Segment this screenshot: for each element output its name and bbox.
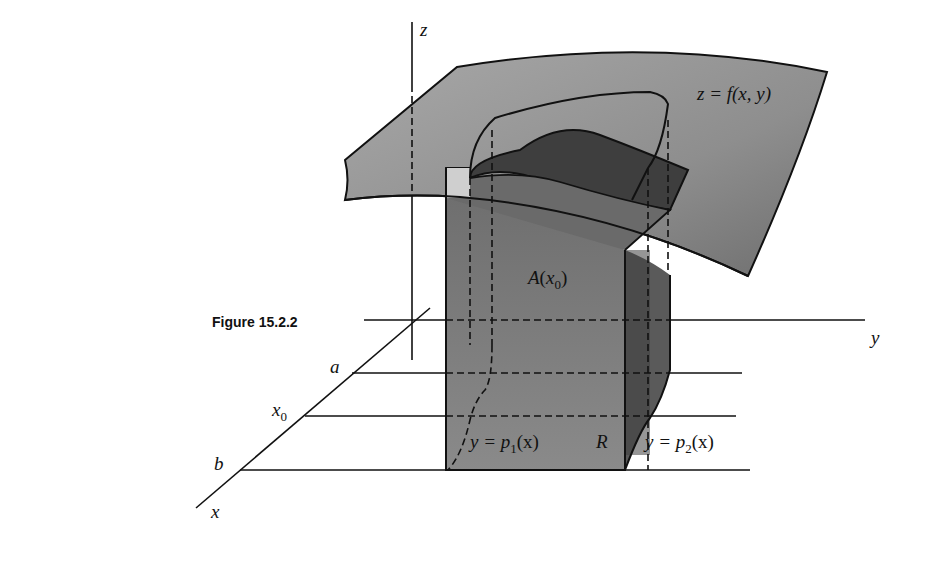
region-label: R [595,431,608,452]
upper-boundary-label: y = p2(x) [643,431,714,456]
figure-canvas: Figure 15.2.2 z y x a x0 b z = f(x, y) A… [0,0,929,562]
tick-a: a [330,356,340,377]
x-axis-label: x [210,501,220,522]
z-axis-label: z [419,19,428,40]
solid-light-notch [447,168,470,198]
figure-caption: Figure 15.2.2 [212,314,298,330]
tick-x0: x0 [271,399,287,424]
y-axis-label: y [869,327,880,348]
tick-b: b [214,453,224,474]
x-axis [196,308,430,508]
surface-label: z = f(x, y) [696,83,771,105]
